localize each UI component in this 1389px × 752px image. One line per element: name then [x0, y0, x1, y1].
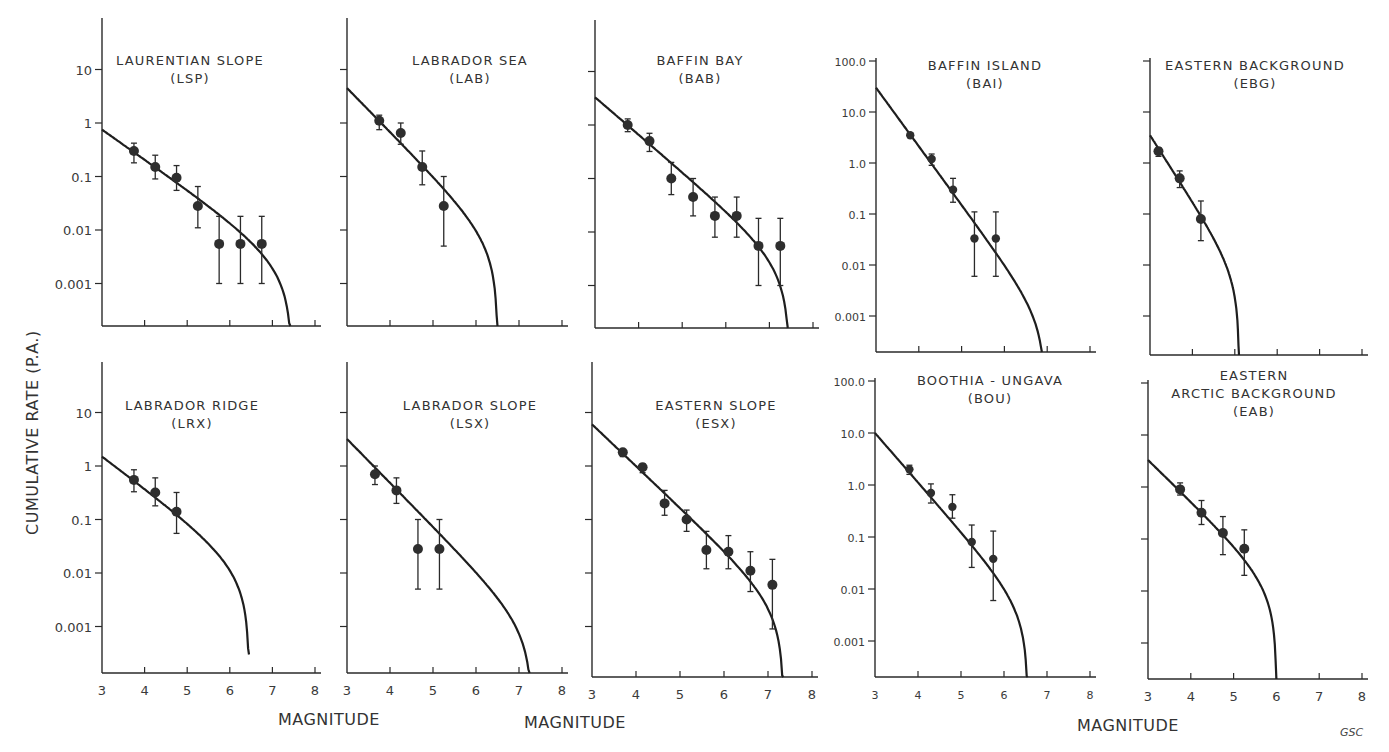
y-tick-label: 0.1: [71, 513, 92, 528]
fit-curve: [347, 88, 498, 326]
data-point: [666, 174, 676, 184]
x-axis-label-3: MAGNITUDE: [1077, 716, 1179, 735]
data-point: [396, 128, 406, 138]
data-point: [413, 544, 423, 554]
fit-curve: [595, 97, 788, 328]
data-point: [1175, 484, 1185, 494]
panel-subtitle: (BAB): [679, 71, 722, 86]
y-tick-label: 0.001: [835, 311, 867, 324]
data-point: [1197, 508, 1207, 518]
y-tick-label: 0.01: [63, 566, 92, 581]
data-point: [927, 489, 935, 497]
data-point: [775, 241, 785, 251]
y-axis-label: CUMULATIVE RATE (P.A.): [23, 330, 42, 535]
x-tick-label: 5: [676, 687, 684, 702]
x-tick-label: 4: [386, 683, 394, 698]
figure: 1010.10.010.001LAURENTIAN SLOPE(LSP)LABR…: [0, 0, 1389, 752]
y-tick-label: 0.01: [63, 223, 92, 238]
y-tick-label: 0.1: [848, 532, 866, 545]
data-point: [732, 211, 742, 221]
x-tick-label: 8: [808, 687, 816, 702]
panel-bai: 100.010.01.00.10.010.001BAFFIN ISLAND(BA…: [835, 56, 1097, 352]
credit-label: GSC: [1340, 726, 1364, 739]
data-point: [701, 545, 711, 555]
fit-curve: [876, 88, 1042, 352]
data-point: [992, 234, 1000, 242]
y-tick-label: 1.0: [848, 480, 866, 493]
data-point: [129, 146, 139, 156]
x-tick-label: 3: [588, 687, 596, 702]
data-point: [906, 131, 914, 139]
y-tick-label: 10.0: [841, 428, 866, 441]
y-tick-label: 100.0: [834, 376, 866, 389]
data-point: [660, 498, 670, 508]
y-tick-label: 1: [84, 116, 92, 131]
x-tick-label: 4: [632, 687, 640, 702]
panel-lab: LABRADOR SEA(LAB): [340, 18, 568, 326]
panel-title: LABRADOR SEA: [412, 53, 528, 68]
y-tick-label: 10: [75, 406, 92, 421]
panel-subtitle: (LRX): [171, 416, 212, 431]
x-tick-label: 6: [720, 687, 728, 702]
data-point: [374, 116, 384, 126]
x-tick-label: 5: [183, 683, 191, 698]
panel-title: BOOTHIA - UNGAVA: [917, 373, 1063, 388]
data-point: [235, 239, 245, 249]
x-tick-label: 7: [1315, 689, 1323, 704]
data-point: [1175, 173, 1185, 183]
y-tick-label: 10: [75, 63, 92, 78]
x-tick-label: 5: [429, 683, 437, 698]
panel-bou: 345678100.010.01.00.10.010.001BOOTHIA - …: [834, 373, 1097, 702]
data-point: [1218, 528, 1228, 538]
data-point: [754, 241, 764, 251]
data-point: [905, 465, 913, 473]
panel-eab: 345678EASTERNARCTIC BACKGROUND(EAB): [1141, 368, 1368, 704]
data-point: [682, 515, 692, 525]
panel-title: LAURENTIAN SLOPE: [116, 53, 264, 68]
panel-subtitle: (BAI): [966, 76, 1004, 91]
x-tick-label: 6: [472, 683, 480, 698]
x-tick-label: 3: [872, 689, 879, 702]
panel-title: EASTERN SLOPE: [655, 398, 776, 413]
data-point: [688, 192, 698, 202]
x-tick-label: 8: [558, 683, 566, 698]
data-point: [439, 201, 449, 211]
data-point: [193, 201, 203, 211]
data-point: [1153, 146, 1163, 156]
panel-esx: 345678EASTERN SLOPE(ESX): [585, 362, 818, 702]
panel-lrx: 3456781010.10.010.001LABRADOR RIDGE(LRX): [55, 362, 321, 698]
x-tick-label: 4: [140, 683, 148, 698]
data-point: [645, 136, 655, 146]
data-point: [172, 173, 182, 183]
data-point: [767, 580, 777, 590]
y-tick-label: 0.1: [71, 170, 92, 185]
x-tick-label: 3: [343, 683, 351, 698]
x-tick-label: 4: [1187, 689, 1195, 704]
fit-curve: [102, 457, 249, 655]
data-point: [370, 469, 380, 479]
panel-title: LABRADOR SLOPE: [403, 398, 537, 413]
data-point: [948, 503, 956, 511]
panel-title: BAFFIN BAY: [656, 53, 743, 68]
panel-subtitle: (EAB): [1233, 404, 1275, 419]
fit-curve: [592, 424, 783, 677]
data-point: [638, 462, 648, 472]
panel-bab: BAFFIN BAY(BAB): [588, 20, 819, 328]
data-point: [434, 544, 444, 554]
panel-ebg: EASTERN BACKGROUND(EBG): [1143, 58, 1368, 355]
panel-title: EASTERN BACKGROUND: [1165, 58, 1345, 73]
data-point: [1196, 214, 1206, 224]
x-tick-label: 4: [915, 689, 922, 702]
data-point: [214, 239, 224, 249]
y-tick-label: 0.1: [849, 209, 867, 222]
panel-lsp: 1010.10.010.001LAURENTIAN SLOPE(LSP): [55, 18, 321, 326]
panel-title: EASTERN: [1220, 368, 1289, 383]
y-tick-label: 100.0: [835, 56, 867, 69]
x-tick-label: 3: [1144, 689, 1152, 704]
x-tick-label: 6: [226, 683, 234, 698]
fit-curve: [1148, 460, 1276, 679]
data-point: [129, 475, 139, 485]
x-axis-label-1: MAGNITUDE: [278, 710, 380, 729]
panel-subtitle: (ESX): [695, 416, 737, 431]
x-tick-label: 8: [311, 683, 319, 698]
